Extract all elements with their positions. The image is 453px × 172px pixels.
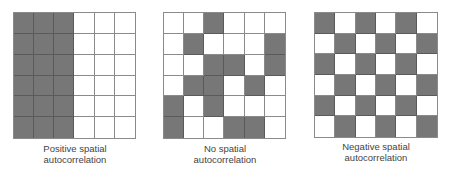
grid-cell-empty (396, 116, 416, 137)
grid-cell-filled (34, 76, 54, 97)
grid-cell-empty (335, 96, 355, 117)
grid-cell-empty (95, 117, 115, 138)
grid-cell-filled (184, 76, 204, 97)
grid-cell-filled (265, 55, 285, 76)
grid-cell-empty (245, 55, 265, 76)
grid-cell-empty (315, 75, 335, 96)
grid-cell-empty (74, 96, 94, 117)
grid-cell-filled (224, 55, 244, 76)
grid-cell-empty (376, 54, 396, 75)
grid-cell-filled (417, 34, 437, 55)
grid-cell-filled (315, 96, 335, 117)
grid-cell-filled (164, 96, 184, 117)
grid-cell-filled (265, 34, 285, 55)
grid-cell-filled (204, 76, 224, 97)
grid-cell-empty (115, 96, 135, 117)
grid-cell-filled (417, 116, 437, 137)
grid-cell-filled (245, 117, 265, 138)
grid-cell-empty (115, 34, 135, 55)
grid-cell-empty (417, 96, 437, 117)
panel-negative-autocorrelation (314, 12, 438, 138)
grid-cell-empty (396, 75, 416, 96)
grid-cell-empty (265, 76, 285, 97)
grid-cell-empty (164, 13, 184, 34)
grid-cell-filled (417, 75, 437, 96)
grid-cell-filled (315, 54, 335, 75)
grid-cell-empty (245, 96, 265, 117)
grid-cell-filled (14, 117, 34, 138)
grid-cell-filled (54, 96, 74, 117)
grid-cell-empty (315, 116, 335, 137)
grid-cell-filled (204, 96, 224, 117)
grid-cell-filled (356, 54, 376, 75)
grid-cell-empty (115, 55, 135, 76)
grid-cell-filled (356, 96, 376, 117)
grid-cell-filled (376, 34, 396, 55)
grid-cell-filled (335, 75, 355, 96)
grid-cell-filled (396, 13, 416, 34)
grid-cell-filled (14, 13, 34, 34)
caption-positive-line2: autocorrelation (25, 154, 125, 165)
grid-cell-empty (184, 96, 204, 117)
grid-cell-empty (95, 55, 115, 76)
grid-cell-empty (95, 96, 115, 117)
grid-cell-filled (396, 54, 416, 75)
grid-cell-empty (74, 13, 94, 34)
panel-no-autocorrelation (163, 12, 286, 139)
grid-cell-filled (54, 117, 74, 138)
grid-cell-filled (204, 55, 224, 76)
grid-cell-empty (245, 34, 265, 55)
grid-cell-filled (204, 13, 224, 34)
grid-cell-empty (224, 34, 244, 55)
caption-negative-line2: autocorrelation (326, 152, 426, 163)
grid-cell-empty (356, 34, 376, 55)
grid-cell-filled (164, 117, 184, 138)
grid-cell-filled (34, 13, 54, 34)
panel-positive-autocorrelation (13, 12, 136, 139)
caption-none-line1: No spatial (175, 143, 275, 154)
grid-cell-filled (54, 34, 74, 55)
grid-cell-filled (245, 76, 265, 97)
grid-cell-filled (335, 34, 355, 55)
grid-cell-filled (315, 13, 335, 34)
grid-cell-filled (396, 96, 416, 117)
grid-cell-empty (74, 117, 94, 138)
grid-cell-empty (356, 75, 376, 96)
grid-cell-empty (417, 13, 437, 34)
grid-cell-filled (356, 13, 376, 34)
grid-cell-empty (265, 13, 285, 34)
grid-cell-empty (164, 55, 184, 76)
grid-cell-empty (335, 54, 355, 75)
grid-cell-filled (34, 117, 54, 138)
grid-cell-filled (14, 96, 34, 117)
grid-cell-filled (54, 13, 74, 34)
caption-negative-line1: Negative spatial (326, 141, 426, 152)
grid-cell-empty (265, 96, 285, 117)
grid-cell-empty (95, 76, 115, 97)
grid-cell-empty (204, 34, 224, 55)
grid-none (163, 12, 286, 139)
grid-cell-empty (315, 34, 335, 55)
grid-cell-filled (335, 116, 355, 137)
grid-cell-empty (74, 76, 94, 97)
grid-cell-empty (115, 117, 135, 138)
grid-cell-empty (265, 117, 285, 138)
grid-cell-filled (224, 117, 244, 138)
grid-cell-filled (376, 116, 396, 137)
grid-cell-empty (356, 116, 376, 137)
grid-cell-empty (417, 54, 437, 75)
grid-cell-empty (95, 34, 115, 55)
grid-cell-empty (224, 96, 244, 117)
grid-cell-filled (184, 34, 204, 55)
grid-cell-empty (396, 34, 416, 55)
grid-cell-filled (14, 34, 34, 55)
grid-cell-empty (115, 76, 135, 97)
grid-cell-filled (376, 75, 396, 96)
grid-negative (314, 12, 438, 138)
caption-positive: Positive spatial autocorrelation (25, 143, 125, 165)
grid-cell-empty (164, 76, 184, 97)
grid-cell-filled (54, 55, 74, 76)
grid-cell-empty (184, 13, 204, 34)
grid-cell-empty (184, 117, 204, 138)
grid-cell-empty (376, 96, 396, 117)
